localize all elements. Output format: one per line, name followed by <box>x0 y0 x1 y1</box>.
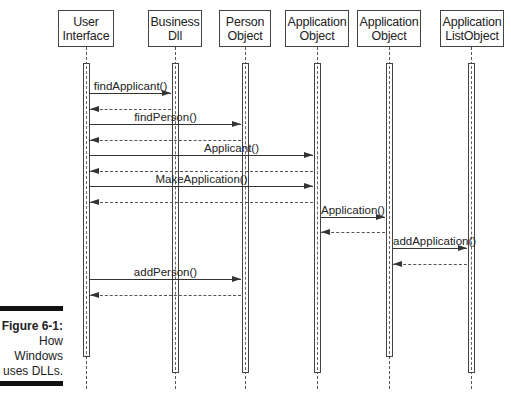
figure-caption: Figure 6-1: How Windows uses DLLs. <box>0 319 63 379</box>
object-business-dll: BusinessDll <box>148 10 202 47</box>
object-application-object-2: ApplicationObject <box>357 10 421 47</box>
activation-person-object <box>242 63 249 373</box>
message-label: addPerson() <box>90 266 241 278</box>
arrowhead-icon <box>321 229 330 235</box>
message-application: Application() <box>321 217 385 218</box>
object-application-listobject: ApplicationListObject <box>440 10 504 47</box>
return-add-application <box>393 264 467 265</box>
message-add-person: addPerson() <box>90 279 241 280</box>
object-label-line2: ListObject <box>443 29 502 43</box>
activation-application-object-2 <box>386 63 393 357</box>
caption-line: uses DLLs. <box>0 364 63 379</box>
caption-top-rule <box>0 306 63 311</box>
arrowhead-icon <box>304 183 313 189</box>
message-make-application: MakeApplication() <box>90 186 313 187</box>
object-label-line1: Business <box>150 15 199 29</box>
message-label: MakeApplication() <box>90 173 313 185</box>
arrowhead-icon <box>458 245 467 251</box>
object-label-line1: Person <box>226 15 264 29</box>
object-label-line2: Object <box>288 29 347 43</box>
object-label-line1: Application <box>360 15 419 29</box>
object-application-object-1: ApplicationObject <box>285 10 349 47</box>
message-find-applicant: findApplicant() <box>90 93 171 94</box>
activation-application-listobject <box>468 63 475 373</box>
message-label: findApplicant() <box>90 80 171 92</box>
return-add-person <box>90 295 241 296</box>
object-person-object: PersonObject <box>219 10 271 47</box>
message-label: Applicant() <box>150 142 313 154</box>
arrowhead-icon <box>232 276 241 282</box>
arrowhead-icon <box>376 214 385 220</box>
caption-line: How <box>0 334 63 349</box>
return-applicant <box>90 171 313 172</box>
arrowhead-icon <box>232 121 241 127</box>
activation-application-object-1 <box>314 63 321 373</box>
object-label-line2: Object <box>226 29 264 43</box>
message-applicant: Applicant() <box>90 155 313 156</box>
object-label-line1: Application <box>288 15 347 29</box>
object-label-line1: User <box>63 15 110 29</box>
object-label-line2: Dll <box>150 29 199 43</box>
message-find-person: findPerson() <box>90 124 241 125</box>
caption-line: Windows <box>0 349 63 364</box>
arrowhead-icon <box>304 152 313 158</box>
activation-user-interface <box>83 63 90 357</box>
arrowhead-icon <box>162 90 171 96</box>
object-label-line2: Interface <box>63 29 110 43</box>
object-label-line2: Object <box>360 29 419 43</box>
activation-business-dll <box>172 63 179 373</box>
object-user-interface: UserInterface <box>58 10 114 47</box>
caption-title: Figure 6-1: <box>0 319 63 334</box>
return-find-person <box>90 140 241 141</box>
message-label: addApplication() <box>393 235 467 247</box>
object-label-line1: Application <box>443 15 502 29</box>
return-find-applicant <box>90 109 171 110</box>
arrowhead-icon <box>90 199 99 205</box>
arrowhead-icon <box>90 292 99 298</box>
arrowhead-icon <box>393 261 402 267</box>
arrowhead-icon <box>90 137 99 143</box>
return-application <box>321 232 385 233</box>
return-make-application <box>90 202 313 203</box>
caption-bottom-rule <box>0 381 63 386</box>
message-add-application: addApplication() <box>393 248 467 249</box>
message-label: findPerson() <box>90 111 241 123</box>
